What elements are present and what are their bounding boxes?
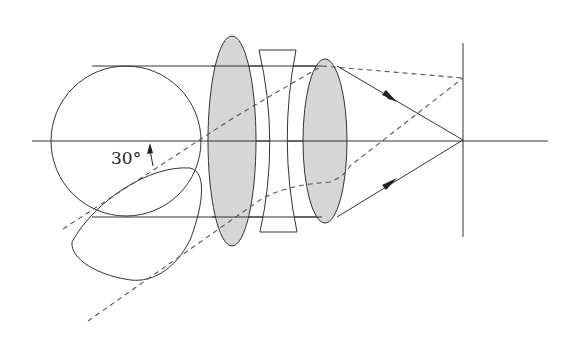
optical-diagram: 30° xyxy=(0,0,573,342)
angle-label: 30° xyxy=(111,148,141,168)
upper-converging-ray xyxy=(337,66,463,140)
angle-arrowhead-icon xyxy=(147,143,153,154)
lower-converging-ray xyxy=(337,140,463,217)
off-axis-pupil-projection xyxy=(72,168,202,280)
arrow-upper-head-icon xyxy=(382,90,397,102)
